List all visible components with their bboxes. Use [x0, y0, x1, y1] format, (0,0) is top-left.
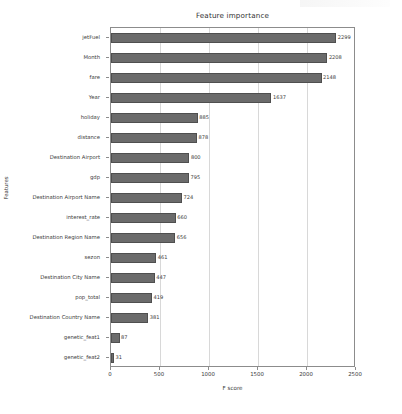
bar[interactable] — [111, 353, 114, 364]
y-axis-tick-label: fare — [90, 67, 100, 87]
x-axis-tick-label: 2500 — [348, 371, 362, 377]
bar-row[interactable]: 31 — [111, 348, 354, 367]
bar-row[interactable]: 447 — [111, 268, 354, 288]
y-axis-tick-label: pop_total — [75, 287, 100, 307]
bar[interactable] — [111, 253, 156, 264]
bar[interactable] — [111, 213, 176, 224]
bar[interactable] — [111, 93, 271, 104]
y-axis-tick-label: Year — [89, 87, 100, 107]
bar-row[interactable]: 381 — [111, 308, 354, 328]
y-axis-tick-mark — [106, 97, 109, 98]
y-axis-tick-mark — [106, 297, 109, 298]
x-axis-tick-mark — [355, 367, 356, 370]
y-axis-tick-label: Destination Airport Name — [32, 187, 100, 207]
bar-value-label: 2208 — [329, 55, 342, 60]
y-axis-tick-mark — [106, 197, 109, 198]
y-axis-tick-mark — [106, 137, 109, 138]
x-axis-tick-label: 1500 — [250, 371, 264, 377]
bar-value-label: 381 — [150, 315, 160, 320]
y-axis-tick-label: Destination Airport — [50, 147, 100, 167]
y-axis-tick-label: genetic_feat2 — [64, 347, 100, 367]
x-axis-tick-label: 500 — [154, 371, 164, 377]
bar-row[interactable]: 2299 — [111, 28, 354, 48]
bar-series: 2299220821481637885878800795724660656461… — [111, 28, 354, 366]
bar[interactable] — [111, 333, 120, 344]
bar-value-label: 2148 — [323, 75, 336, 80]
bar-value-label: 656 — [177, 235, 187, 240]
x-axis-tick-mark — [306, 367, 307, 370]
bar[interactable] — [111, 313, 148, 324]
y-axis-tick-mark — [106, 357, 109, 358]
plot-area: 2299220821481637885878800795724660656461… — [110, 27, 355, 367]
bar-row[interactable]: 660 — [111, 208, 354, 228]
bar[interactable] — [111, 173, 189, 184]
x-axis-ticks: 05001000150020002500 — [110, 367, 355, 381]
y-axis-tick-mark — [106, 277, 109, 278]
bar-value-label: 419 — [154, 295, 164, 300]
bar-row[interactable]: 795 — [111, 168, 354, 188]
bar-row[interactable]: 656 — [111, 228, 354, 248]
y-axis-tick-mark — [106, 337, 109, 338]
y-axis-tick-mark — [106, 237, 109, 238]
y-axis-tick-label: interest_rate — [66, 207, 100, 227]
bar[interactable] — [111, 33, 336, 44]
x-axis-tick-mark — [159, 367, 160, 370]
feature-importance-chart: Feature importance Features jetFuelMonth… — [0, 0, 402, 414]
bar-value-label: 1637 — [273, 95, 286, 100]
y-axis-tick-mark — [106, 177, 109, 178]
bar[interactable] — [111, 113, 198, 124]
x-axis-title: F score — [110, 385, 355, 391]
bar[interactable] — [111, 53, 327, 64]
y-axis-tick-label: genetic_feat1 — [64, 327, 100, 347]
y-axis-tick-label: jetFuel — [82, 27, 100, 47]
bar-value-label: 461 — [158, 255, 168, 260]
bar[interactable] — [111, 273, 155, 284]
x-axis-tick-mark — [208, 367, 209, 370]
x-axis-tick-label: 0 — [108, 371, 111, 377]
bar-row[interactable]: 2148 — [111, 68, 354, 88]
y-axis-tick-mark — [106, 77, 109, 78]
bar-value-label: 2299 — [338, 35, 351, 40]
y-axis-tick-label: holiday — [81, 107, 100, 127]
bar-row[interactable]: 1637 — [111, 88, 354, 108]
y-axis-tick-label: Month — [83, 47, 100, 67]
x-axis-tick-mark — [257, 367, 258, 370]
bar[interactable] — [111, 293, 152, 304]
bar[interactable] — [111, 233, 175, 244]
bar[interactable] — [111, 73, 322, 84]
bar-value-label: 885 — [199, 115, 209, 120]
bar-value-label: 447 — [156, 275, 166, 280]
x-axis-tick-label: 1000 — [201, 371, 215, 377]
y-axis-tick-label: gdp — [90, 167, 100, 187]
y-axis-tick-label: Destination Country Name — [30, 307, 100, 327]
bar-value-label: 31 — [116, 355, 122, 360]
bar-row[interactable]: 878 — [111, 128, 354, 148]
bar-row[interactable]: 461 — [111, 248, 354, 268]
chart-title: Feature importance — [110, 11, 355, 20]
bar-row[interactable]: 2208 — [111, 48, 354, 68]
bar-row[interactable]: 885 — [111, 108, 354, 128]
y-axis-tick-label: sezon — [85, 247, 100, 267]
scan-artifact — [300, 0, 390, 7]
y-axis-labels: jetFuelMonthfareYearholidaydistanceDesti… — [0, 27, 106, 367]
bar-value-label: 87 — [121, 335, 127, 340]
y-axis-tick-label: distance — [78, 127, 100, 147]
bar-row[interactable]: 724 — [111, 188, 354, 208]
bar-value-label: 800 — [191, 155, 201, 160]
bar[interactable] — [111, 153, 189, 164]
y-axis-tick-mark — [106, 37, 109, 38]
bar-row[interactable]: 419 — [111, 288, 354, 308]
y-axis-tick-mark — [106, 157, 109, 158]
y-axis-tick-label: Destination City Name — [40, 267, 100, 287]
y-axis-tick-mark — [106, 217, 109, 218]
x-axis-tick-mark — [110, 367, 111, 370]
y-axis-tick-mark — [106, 257, 109, 258]
bar-value-label: 878 — [199, 135, 209, 140]
bar-value-label: 660 — [177, 215, 187, 220]
bar[interactable] — [111, 133, 197, 144]
bar[interactable] — [111, 193, 182, 204]
bar-value-label: 795 — [190, 175, 200, 180]
bar-row[interactable]: 800 — [111, 148, 354, 168]
bar-value-label: 724 — [183, 195, 193, 200]
bar-row[interactable]: 87 — [111, 328, 354, 348]
